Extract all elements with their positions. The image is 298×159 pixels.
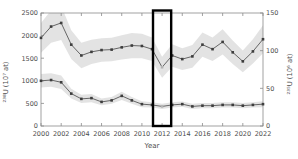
y-axis-label-left: ²³⁸U (10⁷ at) xyxy=(2,61,10,102)
x-tick-label: 2016 xyxy=(194,130,211,138)
data-marker-238U xyxy=(40,37,43,40)
data-marker-235U xyxy=(262,103,265,106)
data-marker-235U xyxy=(110,99,113,102)
data-marker-238U xyxy=(70,43,73,46)
x-tick-label: 2000 xyxy=(33,130,50,138)
data-marker-235U xyxy=(181,103,184,106)
y-tick-label-right: 150 xyxy=(266,9,278,17)
data-marker-235U xyxy=(131,99,134,102)
y-tick-label-right: 50 xyxy=(266,85,274,93)
data-marker-238U xyxy=(191,55,194,58)
x-tick-label: 2006 xyxy=(93,130,110,138)
x-axis-label: Year xyxy=(144,142,160,150)
data-marker-238U xyxy=(50,25,53,28)
x-tick-label: 2002 xyxy=(53,130,70,138)
x-tick-label: 2018 xyxy=(214,130,231,138)
data-marker-235U xyxy=(70,92,73,95)
x-tick-label: 2014 xyxy=(174,130,191,138)
chart-canvas: 2000200220042006200820102012201420162018… xyxy=(0,0,298,159)
data-marker-235U xyxy=(40,80,43,83)
dual-axis-line-chart-figure: 2000200220042006200820102012201420162018… xyxy=(0,0,298,159)
data-marker-238U xyxy=(262,38,265,41)
data-marker-238U xyxy=(100,49,103,52)
data-marker-238U xyxy=(120,46,123,49)
data-marker-235U xyxy=(120,95,123,98)
x-tick-label: 2020 xyxy=(235,130,252,138)
data-marker-238U xyxy=(90,51,93,54)
y-tick-label-right: 0 xyxy=(266,122,270,130)
data-marker-238U xyxy=(141,45,144,48)
data-marker-235U xyxy=(231,104,234,107)
data-marker-235U xyxy=(221,104,224,107)
data-marker-235U xyxy=(80,98,83,101)
x-tick-label: 2010 xyxy=(134,130,151,138)
data-marker-238U xyxy=(221,41,224,44)
data-marker-235U xyxy=(161,105,164,108)
y-tick-label-left: 2500 xyxy=(21,9,38,17)
data-marker-238U xyxy=(231,51,234,54)
data-marker-235U xyxy=(211,104,214,107)
data-marker-235U xyxy=(191,105,194,108)
data-marker-235U xyxy=(201,104,204,107)
data-marker-238U xyxy=(252,50,255,53)
data-marker-235U xyxy=(90,97,93,100)
data-marker-238U xyxy=(60,22,63,25)
data-marker-235U xyxy=(50,79,53,82)
data-marker-238U xyxy=(242,60,245,63)
y-tick-label-left: 1000 xyxy=(21,77,38,85)
y-tick-label-left: 0 xyxy=(34,122,38,130)
data-marker-238U xyxy=(211,48,214,51)
data-marker-238U xyxy=(181,58,184,61)
data-marker-238U xyxy=(110,48,113,51)
x-tick-label: 2012 xyxy=(154,130,171,138)
data-marker-235U xyxy=(100,101,103,104)
data-marker-235U xyxy=(141,103,144,106)
y-tick-label-right: 100 xyxy=(266,47,278,55)
data-marker-238U xyxy=(80,54,83,57)
x-tick-label: 2008 xyxy=(113,130,130,138)
data-marker-238U xyxy=(161,66,164,69)
data-marker-238U xyxy=(131,44,134,47)
y-tick-label-left: 2000 xyxy=(21,32,38,40)
x-tick-label: 2004 xyxy=(73,130,90,138)
data-marker-235U xyxy=(242,104,245,107)
y-tick-label-left: 1500 xyxy=(21,55,38,63)
data-marker-235U xyxy=(252,104,255,107)
y-axis-label-right: ²³⁵U (10⁶ at) xyxy=(286,53,294,94)
x-tick-label: 2022 xyxy=(255,130,272,138)
y-tick-label-left: 500 xyxy=(26,100,38,108)
data-marker-238U xyxy=(201,43,204,46)
data-marker-235U xyxy=(60,81,63,84)
